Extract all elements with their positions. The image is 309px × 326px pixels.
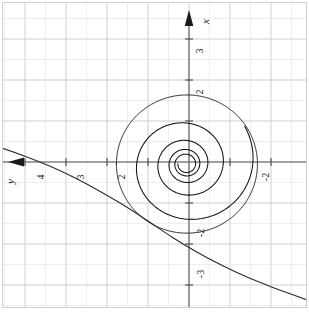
tick-label-h-4: 4	[36, 175, 46, 180]
tick-label-v-3: 3	[195, 49, 205, 54]
tick-label-h-minus-2: -2	[261, 173, 271, 181]
y-axis-label: y	[5, 179, 16, 184]
tick-label-v-minus-3: -3	[196, 270, 206, 278]
tick-label-h-2: 2	[117, 175, 127, 180]
figure-container: x y 4 3 2 -2 3 2 -2 -3	[0, 0, 309, 326]
tick-label-v-2: 2	[195, 90, 205, 95]
plot-background	[2, 2, 307, 308]
tick-label-v-minus-2: -2	[196, 229, 206, 237]
phase-plane-plot	[0, 0, 309, 326]
x-axis-label: x	[200, 19, 211, 24]
tick-label-h-3: 3	[76, 175, 86, 180]
